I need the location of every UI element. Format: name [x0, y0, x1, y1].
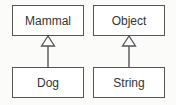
class-box-dog: Dog	[12, 67, 84, 98]
class-box-object: Object	[93, 5, 165, 36]
generalization-arrow-icon	[42, 36, 55, 46]
class-name: Object	[112, 14, 147, 28]
class-name: Dog	[37, 76, 59, 90]
edge-string-object	[123, 36, 136, 67]
class-box-mammal: Mammal	[12, 5, 84, 36]
edge-dog-mammal	[42, 36, 55, 67]
generalization-arrow-icon	[123, 36, 136, 46]
class-name: Mammal	[25, 14, 71, 28]
class-name: String	[113, 76, 144, 90]
class-box-string: String	[93, 67, 165, 98]
